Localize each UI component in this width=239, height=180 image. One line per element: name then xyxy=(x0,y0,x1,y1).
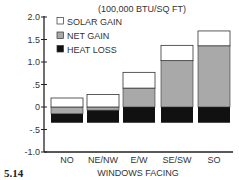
net-gain-segment xyxy=(198,46,230,107)
solar-gain-segment xyxy=(51,98,83,107)
x-tick-label: SO xyxy=(207,155,220,165)
stacked-bar-chart: (100,000 BTU/SQ FT) SOLAR GAINNET GAINHE… xyxy=(0,0,239,180)
y-tick-label: 1.5 xyxy=(27,35,40,45)
net-gain-segment xyxy=(161,61,193,107)
solar-gain-segment xyxy=(198,31,230,46)
y-tick-label: 2.0 xyxy=(27,12,40,22)
legend-swatch xyxy=(57,32,64,39)
legend-label: SOLAR GAIN xyxy=(67,17,122,27)
bar-se-sw xyxy=(161,45,193,122)
net-gain-segment xyxy=(87,107,119,110)
y-tick-label: 0 xyxy=(35,102,40,112)
heat-loss-segment xyxy=(87,110,119,123)
heat-loss-segment xyxy=(51,114,83,123)
legend-label: HEAT LOSS xyxy=(67,45,117,55)
x-axis-label: WINDOWS FACING xyxy=(97,168,179,178)
x-tick-label: NE/NW xyxy=(88,155,119,165)
x-tick-label: NO xyxy=(60,155,74,165)
solar-gain-segment xyxy=(123,72,155,88)
figure-number: 5.14 xyxy=(4,167,23,179)
heat-loss-segment xyxy=(123,107,155,123)
bar-e-w xyxy=(123,72,155,122)
bar-ne-nw xyxy=(87,94,119,122)
y-tick-label: -.5 xyxy=(29,125,40,135)
chart-title: (100,000 BTU/SQ FT) xyxy=(98,4,186,14)
legend-label: NET GAIN xyxy=(67,31,109,41)
net-gain-segment xyxy=(51,107,83,114)
legend-swatch xyxy=(57,18,64,25)
y-tick-label: 1.0 xyxy=(27,57,40,67)
solar-gain-segment xyxy=(161,45,193,60)
bar-so xyxy=(198,31,230,123)
solar-gain-segment xyxy=(87,94,119,107)
y-tick-label: -1.0 xyxy=(24,147,40,157)
heat-loss-segment xyxy=(198,107,230,123)
x-tick-label: SE/SW xyxy=(162,155,192,165)
bar-no xyxy=(51,98,83,123)
x-tick-label: E/W xyxy=(131,155,149,165)
legend: SOLAR GAINNET GAINHEAT LOSS xyxy=(57,17,122,55)
y-tick-label: .5 xyxy=(32,80,40,90)
heat-loss-segment xyxy=(161,107,193,123)
legend-swatch xyxy=(57,46,64,53)
net-gain-segment xyxy=(123,88,155,107)
